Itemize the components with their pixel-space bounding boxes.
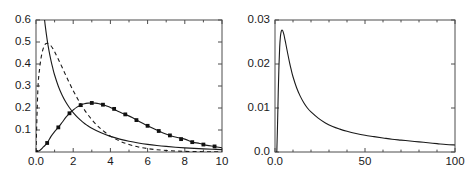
data-point-marker <box>179 137 183 141</box>
data-curve <box>36 0 222 150</box>
data-point-marker <box>123 112 127 116</box>
right-y-tick-labels: 0.00.010.020.03 <box>248 13 270 157</box>
x-tick-label: 8 <box>182 155 188 167</box>
left-y-tick-labels: 0.10.20.30.40.50.6 <box>15 13 32 135</box>
x-tick-label: 100 <box>445 155 464 167</box>
y-tick-label: 0.01 <box>248 101 270 113</box>
right-x-tick-labels: 0.050100 <box>267 155 465 167</box>
data-point-marker <box>68 111 72 115</box>
data-curve <box>277 30 455 152</box>
data-point-marker <box>146 124 150 128</box>
data-point-marker <box>90 101 94 105</box>
y-tick-label: 0.5 <box>15 35 31 47</box>
x-tick-label: 0.0 <box>28 155 44 167</box>
x-tick-label: 0.0 <box>267 155 283 167</box>
density-figure: 0.10.20.30.40.50.6 0.0246810 0.00.010.02… <box>0 0 467 178</box>
left-plot-frame <box>36 20 222 152</box>
left-panel-plot: 0.10.20.30.40.50.6 0.0246810 <box>0 0 233 178</box>
data-point-marker <box>135 118 139 122</box>
left-series-markers <box>34 101 216 154</box>
right-tick-marks <box>275 20 455 152</box>
data-point-marker <box>101 103 105 107</box>
x-tick-label: 4 <box>107 155 114 167</box>
data-point-marker <box>112 107 116 111</box>
left-curves <box>36 0 222 152</box>
right-curves <box>277 30 455 152</box>
x-tick-label: 6 <box>144 155 150 167</box>
data-point-marker <box>157 129 161 133</box>
right-panel-plot: 0.00.010.020.03 0.050100 <box>233 0 467 178</box>
y-tick-label: 0.2 <box>15 101 31 113</box>
data-point-marker <box>213 145 217 149</box>
data-point-marker <box>202 143 206 147</box>
left-tick-marks <box>36 20 222 152</box>
data-point-marker <box>168 134 172 138</box>
y-tick-label: 0.03 <box>248 13 270 25</box>
data-point-marker <box>190 140 194 144</box>
x-tick-label: 50 <box>359 155 372 167</box>
right-plot-frame <box>275 20 455 152</box>
right-panel: 0.00.010.020.03 0.050100 <box>233 0 467 178</box>
y-tick-label: 0.6 <box>15 13 31 25</box>
left-panel: 0.10.20.30.40.50.6 0.0246810 <box>0 0 233 178</box>
x-tick-label: 2 <box>70 155 76 167</box>
y-tick-label: 0.3 <box>15 79 31 91</box>
left-x-tick-labels: 0.0246810 <box>28 155 228 167</box>
data-point-marker <box>56 125 60 129</box>
data-point-marker <box>45 141 49 145</box>
y-tick-label: 0.4 <box>15 57 32 69</box>
data-point-marker <box>79 103 83 107</box>
x-tick-label: 10 <box>216 155 229 167</box>
data-point-marker <box>34 150 38 154</box>
y-tick-label: 0.02 <box>248 57 270 69</box>
y-tick-label: 0.1 <box>15 123 31 135</box>
